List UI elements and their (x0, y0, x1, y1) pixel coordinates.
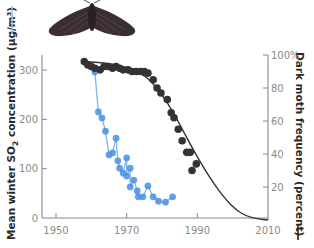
so2-point (109, 150, 116, 157)
x-tick-label: 1990 (185, 225, 210, 236)
fitted-curve-line (84, 62, 268, 220)
dark-moth-point (174, 125, 182, 133)
dark-moth-point (149, 76, 157, 84)
so2-point (140, 193, 147, 200)
fitted-curve-layer (84, 62, 268, 220)
y-right-tick-label: 60 (271, 116, 284, 127)
moth-illustration (49, 0, 136, 36)
so2-point (130, 177, 137, 184)
so2-point (134, 187, 141, 194)
so2-point (169, 193, 176, 200)
y-right-tick-label: 100% (271, 50, 300, 61)
x-tick-label: 1970 (114, 225, 139, 236)
chart: Mean winter SO2 concentration (µg/m³) Da… (0, 0, 314, 248)
so2-point (127, 184, 134, 191)
so2-point (162, 199, 169, 206)
so2-point (155, 198, 162, 205)
so2-point (102, 128, 109, 135)
y-left-tick-label: 300 (19, 65, 38, 76)
so2-series-layer (91, 69, 176, 206)
dark-moth-point (144, 69, 152, 77)
so2-point (144, 183, 151, 190)
moth-body (88, 3, 96, 31)
so2-point (123, 154, 130, 161)
so2-point (95, 109, 102, 116)
y-right-tick-label: 20 (271, 182, 284, 193)
dark-moth-point (192, 160, 200, 168)
so2-point (99, 115, 106, 122)
moth-right-wing (94, 6, 135, 36)
y-right-axis-title: Dark moth frequency (percent) (294, 52, 306, 236)
x-tick-label: 1950 (43, 225, 68, 236)
so2-point (150, 193, 157, 200)
y-left-ticks: 0100200300 (19, 65, 47, 224)
dark-moth-point (157, 89, 165, 97)
so2-point (127, 165, 134, 172)
moth-left-wing (49, 6, 90, 36)
so2-point (114, 157, 121, 164)
dark-moth-point (178, 137, 186, 145)
x-tick-label: 2010 (255, 225, 280, 236)
y-left-tick-label: 100 (19, 163, 38, 174)
x-ticks: 1950197019902010 (43, 213, 280, 236)
y-right-tick-label: 40 (271, 149, 284, 160)
so2-point (113, 135, 120, 142)
dark-moth-point (186, 149, 194, 157)
moth-antennae (84, 0, 100, 3)
so2-point (123, 173, 130, 180)
dark-moth-point (188, 167, 196, 175)
dark-moth-point (164, 96, 172, 104)
dark-moth-series-layer (80, 58, 200, 175)
y-left-axis-title: Mean winter SO2 concentration (µg/m³) (5, 7, 20, 240)
dark-moth-point (170, 114, 178, 122)
y-left-tick-label: 0 (32, 213, 38, 224)
y-right-tick-label: 80 (271, 83, 284, 94)
y-left-tick-label: 200 (19, 114, 38, 125)
